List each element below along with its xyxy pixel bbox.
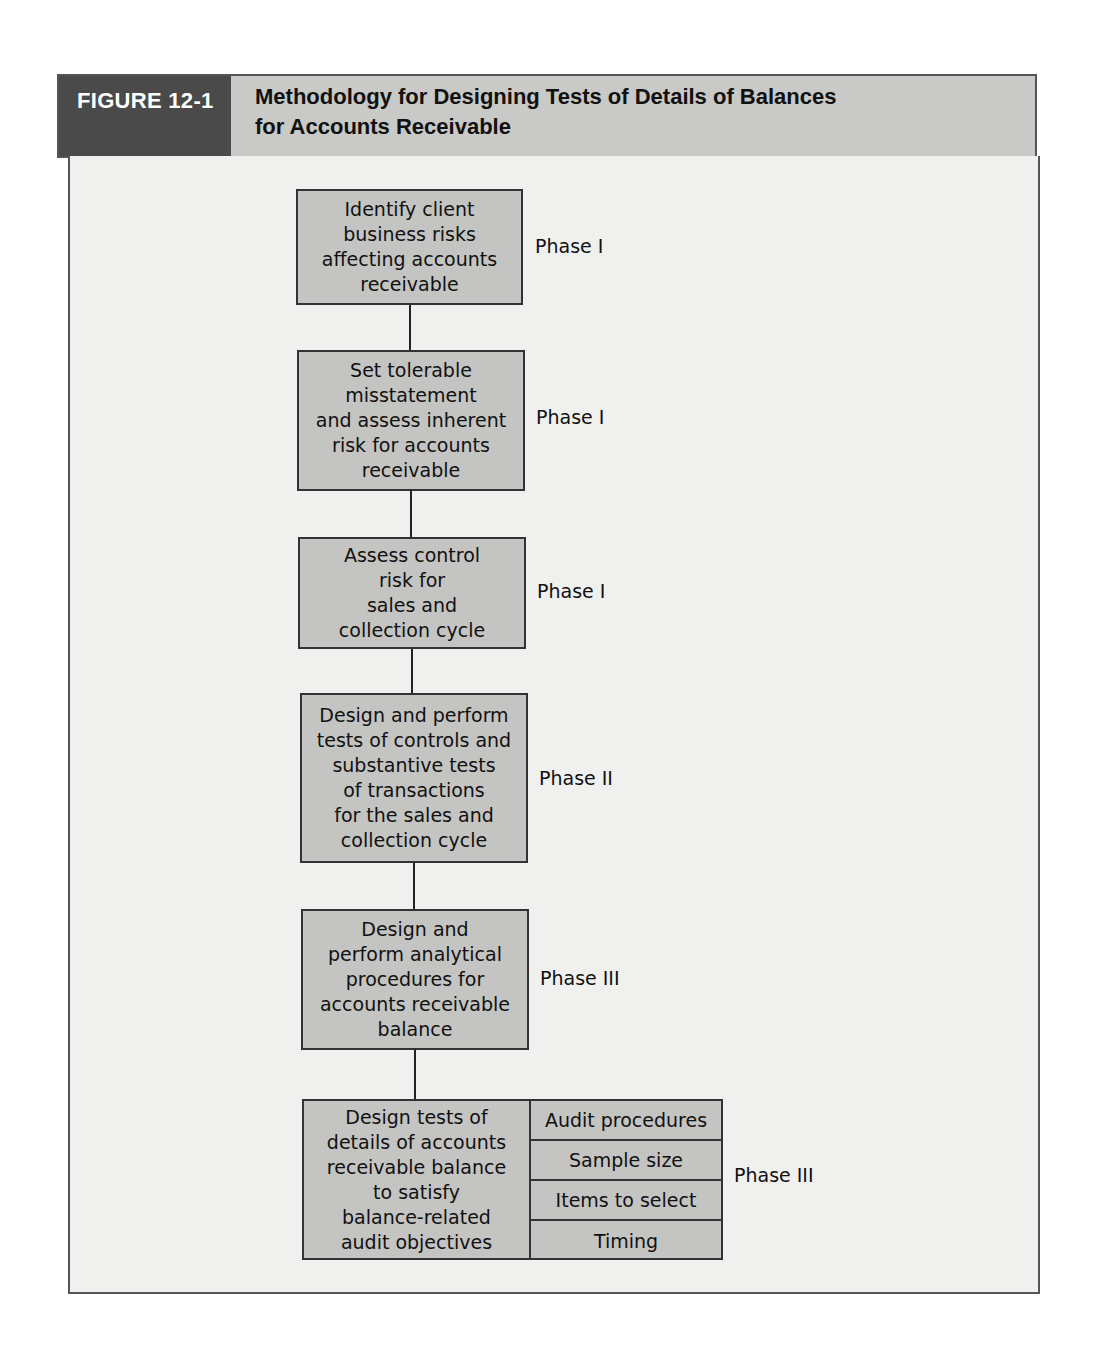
connector-5-6 (414, 1048, 416, 1100)
step-text: receivable balance (327, 1155, 506, 1180)
step-analytical-procedures: Design and perform analytical procedures… (301, 909, 529, 1050)
step-text: collection cycle (339, 618, 485, 643)
connector-2-3 (410, 490, 412, 538)
step-design-tests-of-details: Design tests of details of accounts rece… (302, 1099, 723, 1260)
figure-label: FIGURE 12-1 (59, 76, 231, 156)
step-text: and assess inherent (316, 408, 506, 433)
step-text: perform analytical (320, 942, 510, 967)
step-text: collection cycle (317, 828, 511, 853)
connector-1-2 (409, 304, 411, 351)
connector-3-4 (411, 648, 413, 694)
figure-title-line-1: Methodology for Designing Tests of Detai… (255, 82, 836, 112)
step-design-tests-text: Design tests of details of accounts rece… (304, 1101, 531, 1258)
phase-label: Phase I (536, 406, 604, 428)
component-audit-procedures: Audit procedures (531, 1101, 721, 1141)
step-text: to satisfy (327, 1180, 506, 1205)
step-text: Set tolerable (316, 358, 506, 383)
component-sample-size: Sample size (531, 1141, 721, 1181)
step-text: misstatement (316, 383, 506, 408)
component-timing: Timing (531, 1221, 721, 1261)
step-text: Design and perform (317, 703, 511, 728)
step-text: receivable (322, 272, 497, 297)
step-text: balance (320, 1017, 510, 1042)
connector-4-5 (413, 862, 415, 910)
step-text: for the sales and (317, 803, 511, 828)
figure-title: Methodology for Designing Tests of Detai… (255, 82, 836, 142)
phase-label: Phase I (535, 235, 603, 257)
step-assess-control-risk: Assess control risk for sales and collec… (298, 537, 526, 649)
step-text: receivable (316, 458, 506, 483)
step-text: tests of controls and (317, 728, 511, 753)
step-text: Assess control (339, 543, 485, 568)
figure-title-line-2: for Accounts Receivable (255, 112, 836, 142)
step-text: Design and (320, 917, 510, 942)
phase-label: Phase III (734, 1164, 814, 1186)
step-identify-business-risks: Identify client business risks affecting… (296, 189, 523, 305)
step-text: business risks (322, 222, 497, 247)
step-text: audit objectives (327, 1230, 506, 1255)
step-text: risk for (339, 568, 485, 593)
phase-label: Phase III (540, 967, 620, 989)
step-text: details of accounts (327, 1130, 506, 1155)
step-text: Identify client (322, 197, 497, 222)
phase-label: Phase II (539, 767, 613, 789)
step-text: procedures for (320, 967, 510, 992)
step-tests-of-controls: Design and perform tests of controls and… (300, 693, 528, 863)
step-text: of transactions (317, 778, 511, 803)
step-text: sales and (339, 593, 485, 618)
step-text: substantive tests (317, 753, 511, 778)
step-text: accounts receivable (320, 992, 510, 1017)
audit-program-components: Audit procedures Sample size Items to se… (531, 1101, 721, 1258)
step-set-tolerable-misstatement: Set tolerable misstatement and assess in… (297, 350, 525, 491)
figure-header: FIGURE 12-1 Methodology for Designing Te… (57, 74, 1037, 158)
component-items-to-select: Items to select (531, 1181, 721, 1221)
step-text: balance-related (327, 1205, 506, 1230)
phase-label: Phase I (537, 580, 605, 602)
step-text: Design tests of (327, 1105, 506, 1130)
step-text: risk for accounts (316, 433, 506, 458)
step-text: affecting accounts (322, 247, 497, 272)
